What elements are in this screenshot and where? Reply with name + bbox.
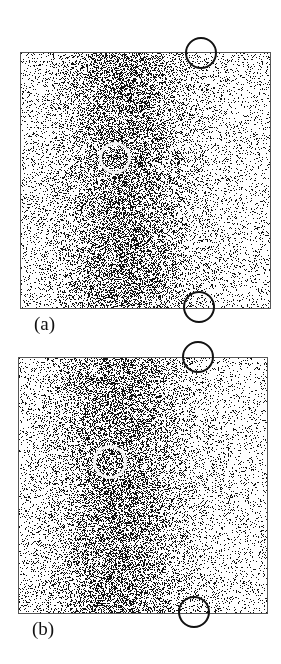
panel-a-noise-image	[20, 52, 271, 309]
panel-a-top-black-circle-marker	[185, 37, 217, 69]
panel-b-bottom-black-circle-marker	[178, 596, 210, 628]
panel-a-bottom-black-circle-marker	[183, 291, 215, 323]
panel-b-noise-image	[18, 357, 268, 614]
panel-a-white-circle-marker	[99, 142, 131, 174]
panel-b-white-circle-marker	[93, 445, 127, 479]
panel-b-label: (b)	[32, 618, 54, 640]
panel-a-label: (a)	[34, 313, 55, 335]
panel-b-top-black-circle-marker	[182, 341, 214, 373]
